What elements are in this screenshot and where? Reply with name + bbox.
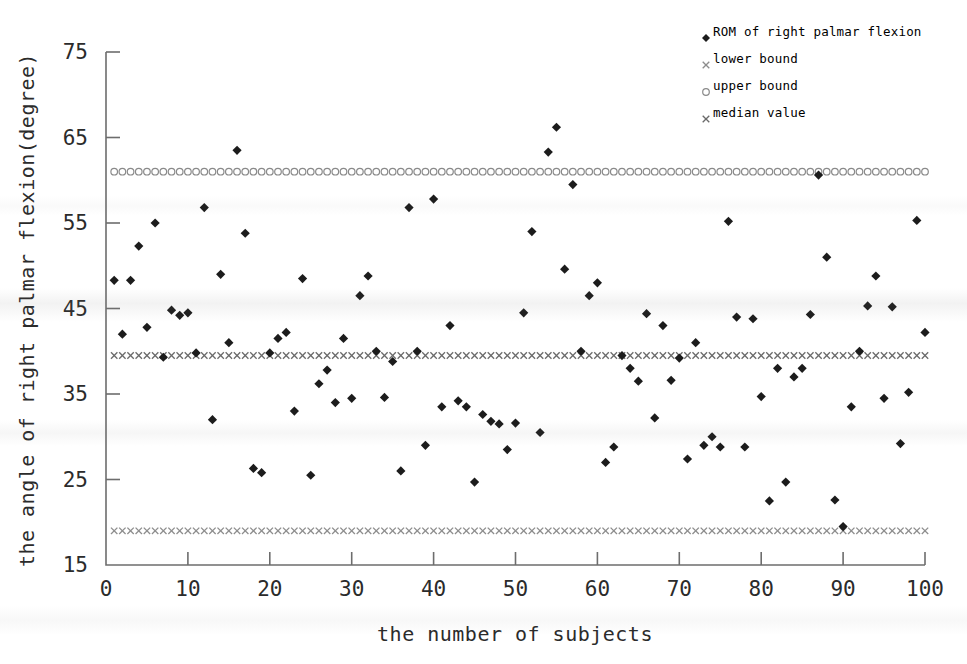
upper-bound-marker	[529, 168, 536, 175]
median-marker	[717, 352, 723, 358]
median-marker	[520, 352, 526, 358]
upper-bound-marker	[144, 168, 151, 175]
data-point-marker	[871, 271, 880, 280]
y-axis-ticks	[106, 138, 120, 480]
legend-markers	[702, 34, 710, 122]
lower-bound-marker	[692, 528, 698, 534]
data-point-marker	[183, 308, 192, 317]
median-marker	[897, 352, 903, 358]
median-marker	[627, 352, 633, 358]
lower-bound-marker	[480, 528, 486, 534]
upper-bound-marker	[488, 168, 495, 175]
lower-bound-marker	[725, 528, 731, 534]
x-marker	[703, 62, 710, 69]
upper-bound-marker	[602, 168, 609, 175]
data-point-marker	[699, 441, 708, 450]
y-tick-label: 65	[63, 126, 88, 150]
upper-bound-marker	[398, 168, 405, 175]
data-point-marker	[314, 379, 323, 388]
upper-bound-marker	[807, 168, 814, 175]
median-marker	[594, 352, 600, 358]
upper-bound-marker	[684, 168, 691, 175]
x-tick-label: 0	[100, 577, 113, 601]
data-point-marker	[789, 372, 798, 381]
upper-bound-marker	[250, 168, 257, 175]
x-tick-label: 20	[257, 577, 282, 601]
median-marker	[725, 352, 731, 358]
upper-bound-marker	[316, 168, 323, 175]
data-point-marker	[855, 347, 864, 356]
median-marker	[660, 352, 666, 358]
lower-bound-marker	[283, 528, 289, 534]
lower-bound-marker	[217, 528, 223, 534]
upper-bound-marker	[389, 168, 396, 175]
upper-bound-marker	[299, 168, 306, 175]
data-point-marker	[667, 376, 676, 385]
median-marker	[488, 352, 494, 358]
lower-bound-marker	[398, 528, 404, 534]
y-tick-label: 15	[63, 553, 88, 577]
lower-bound-marker	[455, 528, 461, 534]
lower-bound-marker	[733, 528, 739, 534]
median-marker	[504, 352, 510, 358]
data-point-marker	[560, 265, 569, 274]
data-point-marker	[151, 218, 160, 227]
median-marker	[463, 352, 469, 358]
x-tick-label: 40	[421, 577, 446, 601]
median-marker	[226, 352, 232, 358]
lower-bound-marker	[774, 528, 780, 534]
data-point-marker	[691, 338, 700, 347]
median-marker	[570, 352, 576, 358]
upper-bound-marker	[873, 168, 880, 175]
median-marker	[684, 352, 690, 358]
lower-bound-marker	[177, 528, 183, 534]
median-marker	[815, 352, 821, 358]
median-marker	[357, 352, 363, 358]
upper-bound-marker	[226, 168, 233, 175]
lower-bound-marker	[914, 528, 920, 534]
median-marker	[783, 352, 789, 358]
data-point-marker	[134, 241, 143, 250]
lower-bound-marker	[365, 528, 371, 534]
median-marker	[742, 352, 748, 358]
lower-bound-marker	[824, 528, 830, 534]
data-point-marker	[839, 522, 848, 531]
upper-bound-marker	[725, 168, 732, 175]
median-marker	[398, 352, 404, 358]
data-point-marker	[847, 402, 856, 411]
lower-bound-marker	[578, 528, 584, 534]
upper-bound-marker	[545, 168, 552, 175]
median-marker	[758, 352, 764, 358]
median-marker	[349, 352, 355, 358]
lower-bound-marker	[447, 528, 453, 534]
data-point-marker	[863, 301, 872, 310]
upper-bound-marker	[610, 168, 617, 175]
upper-bound-marker	[570, 168, 577, 175]
data-point-marker	[159, 353, 168, 362]
lower-bound-marker	[430, 528, 436, 534]
lower-bound-marker	[717, 528, 723, 534]
data-point-marker	[175, 311, 184, 320]
median-marker	[365, 352, 371, 358]
x-tick-label: 10	[175, 577, 200, 601]
lower-bound-marker	[635, 528, 641, 534]
upper-bound-marker	[455, 168, 462, 175]
lower-bound-marker	[520, 528, 526, 534]
upper-bound-marker	[791, 168, 798, 175]
median-marker	[381, 352, 387, 358]
lower-bound-marker	[267, 528, 273, 534]
upper-bound-marker	[823, 168, 830, 175]
data-point-marker	[716, 442, 725, 451]
x-tick-label: 70	[667, 577, 692, 601]
y-tick-label: 35	[63, 382, 88, 406]
lower-bound-marker	[381, 528, 387, 534]
data-point-marker	[527, 227, 536, 236]
data-point-marker	[806, 310, 815, 319]
upper-bound-marker	[217, 168, 224, 175]
upper-bound-reference-line	[111, 168, 928, 175]
data-point-marker	[339, 334, 348, 343]
upper-bound-marker	[668, 168, 675, 175]
data-point-marker	[208, 415, 217, 424]
upper-bound-marker	[619, 168, 626, 175]
lower-bound-marker	[881, 528, 887, 534]
